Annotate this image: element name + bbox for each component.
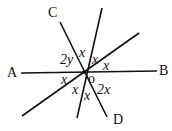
label-a: A: [7, 66, 17, 80]
geometry-diagram: A B C D o 2y x x x x x x 2x: [0, 0, 172, 131]
angle-x-bottom: x: [84, 89, 90, 103]
angle-x-lower-left: x: [72, 83, 78, 97]
angle-2x: 2x: [97, 83, 110, 97]
label-c: C: [48, 6, 57, 20]
label-d: D: [113, 113, 123, 127]
angle-2y: 2y: [60, 53, 73, 67]
angle-x-upper-right: x: [92, 53, 98, 67]
center-point: [82, 70, 86, 74]
label-b: B: [159, 64, 168, 78]
lines: [0, 0, 172, 131]
angle-x-right: x: [103, 59, 109, 73]
label-o: o: [88, 72, 95, 86]
angle-x-left: x: [61, 73, 67, 87]
angle-x-top: x: [79, 46, 85, 60]
